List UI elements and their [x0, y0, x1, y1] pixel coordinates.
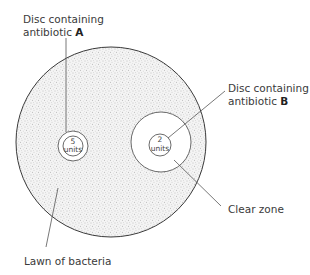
- label-disc-b-prefix: antibiotic: [228, 95, 280, 107]
- label-disc-b-letter: B: [280, 95, 288, 107]
- disc-b: 2 units: [131, 112, 191, 172]
- label-disc-a-line2: antibiotic A: [23, 26, 104, 39]
- disc-b-dose: 2: [158, 135, 163, 144]
- label-disc-b-line1: Disc containing: [228, 82, 309, 95]
- label-disc-a-prefix: antibiotic: [23, 26, 75, 38]
- label-disc-b-line2: antibiotic B: [228, 95, 309, 108]
- label-clear-zone: Clear zone: [228, 203, 284, 216]
- label-disc-a: Disc containing antibiotic A: [23, 13, 104, 39]
- disc-b-unit: units: [151, 144, 170, 153]
- label-disc-a-line1: Disc containing: [23, 13, 104, 26]
- disc-a: 5 units: [58, 131, 88, 161]
- label-disc-a-letter: A: [75, 26, 83, 38]
- label-lawn-of-bacteria: Lawn of bacteria: [24, 255, 111, 268]
- plate-diagram: 5 units 2 units: [0, 0, 310, 275]
- label-disc-b: Disc containing antibiotic B: [228, 82, 309, 108]
- disc-a-unit: units: [64, 145, 83, 154]
